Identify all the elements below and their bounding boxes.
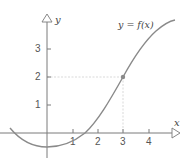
function-curve: [10, 20, 175, 147]
x-tick-label: 4: [146, 136, 152, 147]
y-axis-label: y: [54, 14, 61, 25]
y-tick-label: 1: [35, 99, 41, 110]
x-tick-label: 3: [120, 136, 126, 147]
curve-label: y = f(x): [117, 19, 154, 30]
x-axis-arrow-icon: [172, 128, 180, 138]
y-tick-label: 2: [35, 71, 41, 82]
x-tick-label: 2: [95, 136, 101, 147]
y-axis-arrow-icon: [42, 14, 52, 22]
y-tick-label: 3: [35, 43, 41, 54]
function-graph: 1 2 3 4 1 2 3 x y y = f(x): [0, 0, 188, 163]
x-axis-label: x: [174, 117, 180, 128]
x-ticks: [73, 129, 149, 133]
y-ticks: [47, 49, 51, 105]
highlighted-point: [121, 75, 125, 79]
